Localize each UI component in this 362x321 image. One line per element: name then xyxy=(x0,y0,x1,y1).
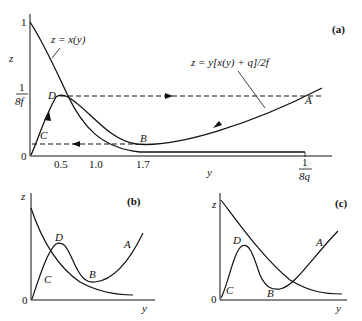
point-c-label: C xyxy=(44,273,52,285)
origin-label: 0 xyxy=(22,294,28,306)
y-tick-1-0: 1.0 xyxy=(89,158,103,170)
y-tick-0-5: 0.5 xyxy=(54,158,68,170)
point-b-label: B xyxy=(267,287,274,299)
z-axis-label: z xyxy=(20,190,26,202)
y-axis-label: y xyxy=(206,166,212,178)
arrow-down-left-icon xyxy=(213,121,222,128)
origin-label: 0 xyxy=(211,293,217,305)
z-tick-frac-den: 8f xyxy=(15,95,26,107)
leader-nullcline xyxy=(238,71,265,108)
panel-a: (a) z y 1 0 1 8f 0.5 1.0 1.7 1 8q z = x(… xyxy=(8,14,345,182)
z-tick-frac-num: 1 xyxy=(19,81,25,93)
point-b-label: B xyxy=(140,132,147,144)
point-c-label: C xyxy=(40,129,48,141)
point-d-label: D xyxy=(47,89,56,101)
panel-b: (b) z y 0 A B C D xyxy=(20,190,155,314)
point-a-label: A xyxy=(123,238,131,250)
z-tick-1: 1 xyxy=(21,16,27,28)
panel-c: (c) z y 0 A B C D xyxy=(211,193,348,314)
point-c-label: C xyxy=(226,284,234,296)
y-axis-label: y xyxy=(335,302,341,314)
z-axis-label: z xyxy=(8,52,14,64)
point-d-label: D xyxy=(232,234,241,246)
y-tick-1-8q-num: 1 xyxy=(302,156,308,168)
point-a-label: A xyxy=(304,94,312,106)
point-b-label: B xyxy=(89,268,96,280)
panel-b-tag: (b) xyxy=(127,195,141,208)
arrow-left-icon xyxy=(72,141,80,147)
leader-x-of-y xyxy=(52,48,60,58)
arrow-up-icon xyxy=(44,111,51,121)
z-tick-0: 0 xyxy=(21,150,27,162)
y-tick-1-7: 1.7 xyxy=(136,158,150,170)
figure: (a) z y 1 0 1 8f 0.5 1.0 1.7 1 8q z = x(… xyxy=(0,0,362,321)
y-axis-label: y xyxy=(141,302,147,314)
arrow-right-icon xyxy=(165,93,173,99)
point-d-label: D xyxy=(54,231,63,243)
point-a-label: A xyxy=(315,236,323,248)
curve-x-of-y-label: z = x(y) xyxy=(50,33,86,46)
y-tick-1-8q-den: 8q xyxy=(299,170,311,182)
panel-a-tag: (a) xyxy=(332,23,345,36)
z-axis-label: z xyxy=(211,198,217,210)
curve-nullcline-label: z = y[x(y) + q]/2f xyxy=(190,56,271,69)
panel-c-tag: (c) xyxy=(335,197,348,210)
